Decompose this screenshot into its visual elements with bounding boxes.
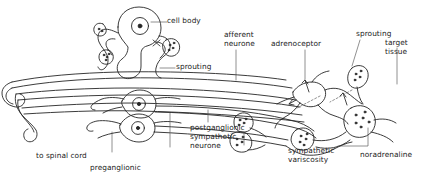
ganglion-neurone-lower (87, 114, 181, 142)
label-adrenoceptor: adrenoceptor (271, 40, 321, 49)
leader-sprouting-right (352, 40, 360, 66)
label-sympathetic-varicosity-line2: variscosity (288, 156, 328, 165)
label-noradrenaline: noradrenaline (360, 151, 412, 160)
label-cell-body: cell body (167, 17, 201, 26)
label-afferent-neurone-line2: neurone (224, 40, 255, 49)
sprouting-branch-left (94, 23, 118, 70)
sensory-cell-body (117, 7, 161, 79)
sprouting-varicosity-right (348, 66, 368, 104)
leader-target-dash (330, 90, 352, 102)
axon-bundle (12, 72, 304, 122)
label-postganglionic-line3: neurone (190, 142, 221, 151)
label-sprouting-left: sprouting (176, 63, 211, 72)
label-preganglionic: preganglionic (90, 164, 141, 173)
spinal-cord-fibre-ends (2, 82, 37, 142)
label-to-spinal-cord: to spinal cord (36, 152, 87, 161)
label-target-tissue-line2: tissue (385, 48, 407, 57)
sympathetic-innervation-figure: cell body sprouting afferent neurone adr… (0, 0, 438, 183)
leader-adrenoceptor-dash (297, 96, 320, 108)
